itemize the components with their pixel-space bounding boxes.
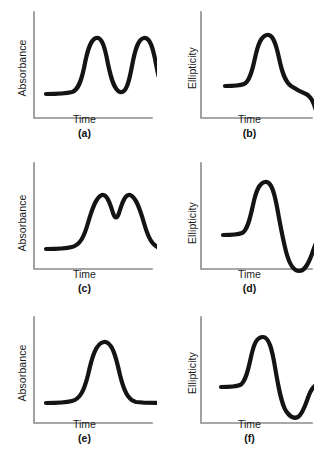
panel-b: Ellipticity Time (b) [157,0,314,155]
curve-e [46,342,157,403]
panel-letter-c: (c) [6,282,163,294]
curve-c [46,195,157,249]
panel-a: Absorbance Time (a) [0,0,157,155]
x-axis-label-b: Time [171,113,314,125]
curve-a [46,38,157,94]
curve-f [221,337,314,418]
panel-letter-f: (f) [171,432,314,444]
x-axis-label-a: Time [6,113,163,125]
panel-letter-d: (d) [171,282,314,294]
x-axis-label-e: Time [6,418,163,430]
axes-b [201,12,312,118]
axes-f [201,317,312,423]
x-axis-label-c: Time [6,268,163,280]
x-axis-label-f: Time [171,418,314,430]
panel-grid: Absorbance Time (a) Ellipticity Time (b) [0,0,314,465]
panel-e: Absorbance Time (e) [0,305,157,465]
curve-d [223,182,314,271]
axes-e [34,317,152,423]
panel-letter-b: (b) [171,127,314,139]
panel-f: Ellipticity Time (f) [157,305,314,465]
panel-d: Ellipticity Time (d) [157,155,314,305]
figure-panel-grid: Absorbance Time (a) Ellipticity Time (b) [0,0,314,465]
panel-letter-e: (e) [6,432,163,444]
x-axis-label-d: Time [171,268,314,280]
panel-letter-a: (a) [6,127,163,139]
axes-d [201,163,312,269]
axes-c [34,163,152,269]
panel-c: Absorbance Time (c) [0,155,157,305]
